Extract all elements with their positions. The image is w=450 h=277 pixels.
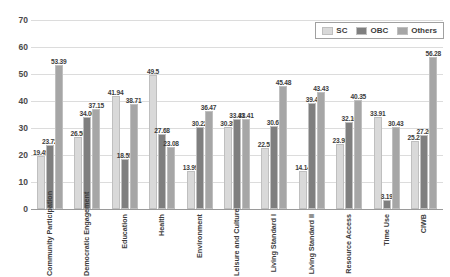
bar-value-label: 30.43 (388, 120, 404, 127)
bar-others[interactable]: 30.43 (392, 127, 400, 209)
y-tick-label-60: 60 (2, 42, 28, 52)
x-axis-label-text: Living Standard II (308, 214, 316, 276)
bar-chart: 010203040506070 19.4923.7253.3926.5634.0… (0, 0, 450, 277)
bar-value-label: 36.47 (201, 104, 217, 111)
bar-value-label: 43.43 (313, 85, 329, 92)
x-axis-label-text: Community Participation (46, 214, 54, 276)
bar-obc[interactable]: 30.65 (270, 126, 278, 209)
x-axis-label-text: Environment (195, 214, 203, 276)
x-axis-label: Environment (181, 212, 218, 277)
bar-sc[interactable]: 14.14 (299, 171, 307, 209)
y-tick-label-20: 20 (2, 150, 28, 160)
x-axis-label: Community Participation (31, 212, 68, 277)
bar-sc[interactable]: 22.58 (261, 148, 269, 209)
bar-sc[interactable]: 30.39 (224, 127, 232, 209)
bar-groups: 19.4923.7253.3926.5634.0637.1541.9418.55… (31, 20, 443, 209)
bar-sc[interactable]: 13.99 (187, 171, 195, 209)
bar-sc[interactable]: 23.98 (336, 144, 344, 209)
x-axis-label: Living Standard II (293, 212, 330, 277)
bar-others[interactable]: 38.71 (130, 104, 138, 209)
legend-label: OBC (370, 26, 388, 35)
legend-swatch-icon (356, 27, 367, 35)
bar-group: 49.527.6823.08 (143, 20, 180, 209)
bar-value-label: 45.48 (276, 79, 292, 86)
bar-sc[interactable]: 49.5 (149, 75, 157, 209)
bar-others[interactable]: 23.08 (167, 147, 175, 209)
x-axis-label: CIWB (406, 212, 443, 277)
bar-value-label: 33.91 (370, 110, 386, 117)
bar-group: 25.2227.2656.28 (406, 20, 443, 209)
x-axis-labels: Community ParticipationDemocratic Engage… (31, 212, 443, 277)
bar-sc[interactable]: 25.22 (411, 141, 419, 209)
legend-item-others[interactable]: Others (397, 26, 437, 35)
bar-group: 30.3933.4133.41 (218, 20, 255, 209)
x-axis-label: Resource Access (331, 212, 368, 277)
bar-value-label: 27.68 (154, 127, 170, 134)
bar-others[interactable]: 33.41 (242, 119, 250, 209)
bar-obc[interactable]: 33.41 (233, 119, 241, 209)
x-axis-label: Democratic Engagement (68, 212, 105, 277)
legend-label: SC (336, 26, 347, 35)
bar-value-label: 49.5 (147, 68, 159, 75)
legend-item-sc[interactable]: SC (322, 26, 347, 35)
x-axis-label-text: Resource Access (345, 214, 353, 276)
bar-obc[interactable]: 39.4 (308, 103, 316, 209)
legend-label: Others (411, 26, 437, 35)
chart-header-area (0, 0, 450, 14)
y-tick-label-40: 40 (2, 96, 28, 106)
bar-value-label: 33.41 (238, 112, 254, 119)
x-axis-label-text: Time Use (383, 214, 391, 276)
x-axis-label: Living Standard I (256, 212, 293, 277)
x-axis-label: Health (143, 212, 180, 277)
x-axis-label: Education (106, 212, 143, 277)
x-axis-label-text: Health (158, 214, 166, 276)
bar-group: 14.1439.443.43 (293, 20, 330, 209)
bar-group: 19.4923.7253.39 (31, 20, 68, 209)
x-axis-label: Time Use (368, 212, 405, 277)
bar-obc[interactable]: 3.19 (383, 200, 391, 209)
x-axis-label-text: Education (120, 214, 128, 276)
bar-value-label: 40.35 (351, 93, 367, 100)
chart-legend: SCOBCOthers (315, 22, 444, 39)
bar-group: 13.9930.2236.47 (181, 20, 218, 209)
bar-others[interactable]: 37.15 (92, 109, 100, 209)
bar-others[interactable]: 36.47 (205, 111, 213, 209)
bar-others[interactable]: 53.39 (55, 65, 63, 209)
bar-others[interactable]: 56.28 (429, 57, 437, 209)
bar-others[interactable]: 40.35 (354, 100, 362, 209)
legend-item-obc[interactable]: OBC (356, 26, 388, 35)
bar-obc[interactable]: 32.16 (345, 122, 353, 209)
y-tick-label-10: 10 (2, 177, 28, 187)
bar-group: 22.5830.6545.48 (256, 20, 293, 209)
bar-obc[interactable]: 18.55 (121, 159, 129, 209)
bar-sc[interactable]: 19.49 (37, 156, 45, 209)
bar-value-label: 41.94 (108, 89, 124, 96)
legend-swatch-icon (322, 27, 333, 35)
bar-obc[interactable]: 30.22 (196, 127, 204, 209)
x-axis-label-text: CIWB (420, 214, 428, 276)
bar-obc[interactable]: 27.26 (420, 135, 428, 209)
legend-swatch-icon (397, 27, 408, 35)
bar-group: 33.913.1930.43 (368, 20, 405, 209)
bar-group: 26.5634.0637.15 (68, 20, 105, 209)
x-axis-label: Leisure and Culture (218, 212, 255, 277)
bar-others[interactable]: 43.43 (317, 92, 325, 209)
y-tick-label-30: 30 (2, 123, 28, 133)
bar-group: 23.9832.1640.35 (331, 20, 368, 209)
bar-others[interactable]: 45.48 (279, 86, 287, 209)
x-axis-label-text: Living Standard I (270, 214, 278, 276)
y-tick-label-0: 0 (2, 204, 28, 214)
y-tick-label-50: 50 (2, 69, 28, 79)
x-axis-label-text: Democratic Engagement (83, 214, 91, 276)
bar-value-label: 23.08 (163, 140, 179, 147)
bar-value-label: 38.71 (126, 97, 142, 104)
bar-value-label: 56.28 (425, 50, 441, 57)
bar-value-label: 37.15 (88, 102, 104, 109)
bar-group: 41.9418.5538.71 (106, 20, 143, 209)
x-axis-label-text: Leisure and Culture (233, 214, 241, 276)
y-tick-label-70: 70 (2, 15, 28, 25)
bar-value-label: 53.39 (51, 58, 67, 65)
